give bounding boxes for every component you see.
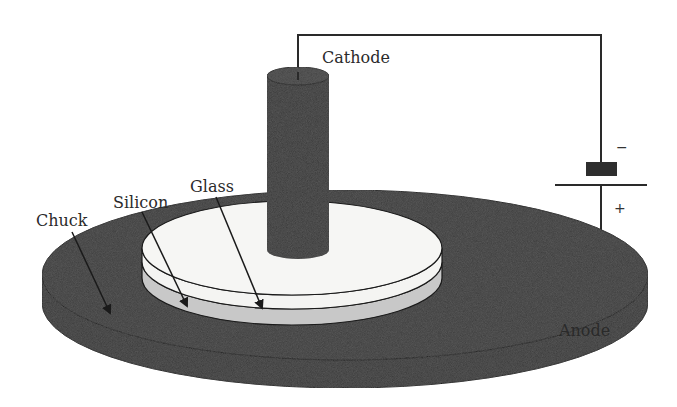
label-anode: Anode: [558, 321, 610, 340]
label-silicon: Silicon: [113, 193, 168, 212]
cathode-body: [267, 76, 329, 259]
battery-plus-sign: +: [614, 200, 626, 216]
battery-minus-sign: −: [616, 139, 628, 155]
anodic-bonding-diagram: − + Cathode Glass Silicon Chuck Anode: [0, 0, 677, 407]
label-cathode: Cathode: [322, 48, 390, 67]
label-chuck: Chuck: [36, 211, 88, 230]
label-glass: Glass: [190, 177, 234, 196]
cathode-electrode: [267, 67, 329, 259]
battery-negative-plate: [586, 162, 617, 176]
